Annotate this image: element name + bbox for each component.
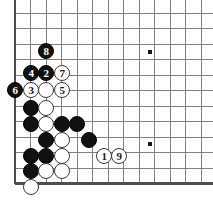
white-stone xyxy=(38,116,54,132)
black-stone xyxy=(81,132,97,148)
move-number-label: 1 xyxy=(102,150,107,161)
black-stone xyxy=(23,148,39,164)
white-stone xyxy=(54,132,70,148)
move-stone-4: 4 xyxy=(23,65,39,81)
move-number-label: 4 xyxy=(29,67,34,78)
black-stone xyxy=(38,132,54,148)
white-stone xyxy=(54,163,70,179)
black-stone xyxy=(23,116,39,132)
move-stone-5: 5 xyxy=(54,82,70,98)
move-number-label: 8 xyxy=(44,45,49,56)
move-stone-7: 7 xyxy=(54,65,70,81)
star-point-lower xyxy=(148,142,152,146)
move-stone-2: 2 xyxy=(38,65,54,81)
move-number-label: 2 xyxy=(44,67,49,78)
move-number-label: 7 xyxy=(60,67,65,78)
move-stone-1: 1 xyxy=(96,148,112,164)
black-stone xyxy=(23,163,39,179)
white-stone xyxy=(38,163,54,179)
move-stone-9: 9 xyxy=(111,148,127,164)
move-stone-6: 6 xyxy=(7,82,23,98)
move-number-label: 5 xyxy=(60,84,65,95)
go-board-diagram: 123456789 xyxy=(0,0,213,209)
move-number-label: 3 xyxy=(29,84,34,95)
move-stone-8: 8 xyxy=(38,43,54,59)
move-stone-3: 3 xyxy=(23,82,39,98)
black-stone xyxy=(69,116,85,132)
black-stone xyxy=(23,100,39,116)
black-stone xyxy=(54,116,70,132)
white-stone xyxy=(54,148,70,164)
white-stone xyxy=(23,179,39,195)
white-stone xyxy=(38,82,54,98)
star-points xyxy=(148,50,152,146)
white-stone xyxy=(38,100,54,116)
move-number-label: 6 xyxy=(13,84,18,95)
move-number-label: 9 xyxy=(117,150,122,161)
black-stone xyxy=(38,148,54,164)
star-point-upper xyxy=(148,50,152,54)
